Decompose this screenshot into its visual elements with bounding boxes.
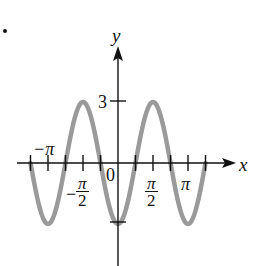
fraction-numerator: π bbox=[145, 176, 158, 192]
y-axis-label: y bbox=[112, 26, 120, 45]
fraction-denominator: 2 bbox=[76, 192, 89, 209]
fraction-denominator: 2 bbox=[145, 192, 158, 209]
x-tick-label-pi: π bbox=[181, 175, 190, 193]
x-tick-label-neg-half-pi: π 2 bbox=[76, 176, 89, 209]
fraction-numerator: π bbox=[76, 176, 89, 192]
x-tick-label-neg-half-pi-minus: − bbox=[66, 185, 76, 203]
plot-area bbox=[0, 0, 264, 266]
x-tick-label-half-pi: π 2 bbox=[145, 176, 158, 209]
y-tick-label-3: 3 bbox=[98, 93, 107, 111]
x-axis-label: x bbox=[239, 155, 247, 174]
bullet-icon bbox=[3, 29, 7, 33]
origin-label: 0 bbox=[106, 166, 115, 184]
x-tick-label-neg-pi: −π bbox=[33, 140, 54, 158]
